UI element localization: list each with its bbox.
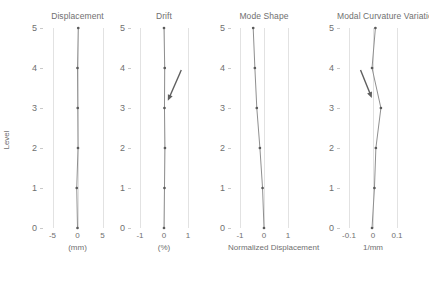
data-point <box>373 187 376 190</box>
plot-area: 543210-101(%) <box>128 28 200 228</box>
y-tick-mark <box>128 228 131 229</box>
x-tick-label: 0 <box>262 231 266 240</box>
data-point <box>77 27 80 30</box>
y-axis-label: Level <box>2 130 11 149</box>
data-point <box>380 107 383 110</box>
data-line <box>253 28 264 228</box>
panel-title: Displacement <box>40 11 115 21</box>
y-tick-label: 3 <box>120 103 125 113</box>
data-point <box>163 27 166 30</box>
y-tick-label: 5 <box>32 23 37 33</box>
y-tick-label: 1 <box>329 183 334 193</box>
panel-2: Drift543210-101(%) <box>128 0 200 285</box>
y-tick-mark <box>40 228 43 229</box>
panel-title: Drift <box>128 11 200 21</box>
data-point <box>76 107 79 110</box>
data-point <box>263 227 266 230</box>
data-point <box>255 107 258 110</box>
series-layer <box>337 28 409 228</box>
data-line <box>164 28 165 228</box>
data-point <box>76 67 79 70</box>
y-tick-label: 4 <box>329 63 334 73</box>
data-point <box>259 147 262 150</box>
series-layer <box>128 28 200 228</box>
x-tick-label: 0 <box>371 231 375 240</box>
y-tick-label: 0 <box>220 223 225 233</box>
plot-area: 543210-101Normalized Displacement <box>228 28 300 228</box>
series-layer <box>40 28 115 228</box>
data-point <box>76 227 79 230</box>
y-tick-label: 5 <box>120 23 125 33</box>
data-point <box>163 227 166 230</box>
y-tick-label: 4 <box>32 63 37 73</box>
data-point <box>371 67 374 70</box>
y-tick-label: 1 <box>120 183 125 193</box>
data-line <box>77 28 79 228</box>
y-tick-label: 2 <box>120 143 125 153</box>
y-tick-label: 2 <box>32 143 37 153</box>
data-point <box>371 227 374 230</box>
data-point <box>252 27 255 30</box>
x-tick-label: 5 <box>100 231 104 240</box>
y-tick-label: 4 <box>220 63 225 73</box>
series-layer <box>228 28 300 228</box>
data-point <box>164 147 167 150</box>
data-point <box>261 187 264 190</box>
y-tick-label: 2 <box>220 143 225 153</box>
x-axis-label: 1/mm <box>337 243 409 252</box>
x-axis-label: (%) <box>128 243 200 252</box>
x-tick-label: 0 <box>162 231 166 240</box>
figure-canvas: Displacement543210-505(mm)Drift543210-10… <box>0 0 429 285</box>
data-point <box>163 187 166 190</box>
panel-title: Modal Curvature Variation <box>337 11 409 21</box>
y-tick-label: 3 <box>32 103 37 113</box>
y-tick-label: 2 <box>329 143 334 153</box>
y-tick-mark <box>337 228 340 229</box>
data-point <box>374 27 377 30</box>
data-line <box>372 28 381 228</box>
data-point <box>375 147 378 150</box>
data-point <box>254 67 257 70</box>
y-tick-mark <box>228 228 231 229</box>
data-point <box>163 67 166 70</box>
x-axis-label: Normalized Displacement <box>228 243 300 252</box>
data-point <box>75 187 78 190</box>
y-tick-label: 3 <box>220 103 225 113</box>
annotation-arrowhead <box>367 91 372 98</box>
x-tick-label: -0.1 <box>342 231 356 240</box>
y-tick-label: 4 <box>120 63 125 73</box>
x-tick-label: 0.1 <box>391 231 402 240</box>
panel-3: Mode Shape543210-101Normalized Displacem… <box>228 0 300 285</box>
y-tick-label: 5 <box>329 23 334 33</box>
y-tick-label: 0 <box>32 223 37 233</box>
x-tick-label: -5 <box>49 231 56 240</box>
annotation-arrow <box>170 70 182 97</box>
y-tick-label: 3 <box>329 103 334 113</box>
panel-title: Mode Shape <box>228 11 300 21</box>
panel-4: Modal Curvature Variation543210-0.100.11… <box>337 0 409 285</box>
annotation-arrow <box>361 70 371 94</box>
y-tick-label: 0 <box>120 223 125 233</box>
x-tick-label: -1 <box>236 231 243 240</box>
y-tick-label: 1 <box>32 183 37 193</box>
plot-area: 543210-505(mm) <box>40 28 115 228</box>
x-tick-label: 1 <box>286 231 290 240</box>
x-tick-label: -1 <box>136 231 143 240</box>
y-tick-label: 5 <box>220 23 225 33</box>
plot-area: 543210-0.100.11/mm <box>337 28 409 228</box>
data-point <box>163 107 166 110</box>
x-tick-label: 0 <box>75 231 79 240</box>
panel-1: Displacement543210-505(mm) <box>40 0 115 285</box>
data-point <box>77 147 80 150</box>
y-tick-label: 0 <box>329 223 334 233</box>
x-tick-label: 1 <box>186 231 190 240</box>
y-tick-label: 1 <box>220 183 225 193</box>
x-axis-label: (mm) <box>40 243 115 252</box>
